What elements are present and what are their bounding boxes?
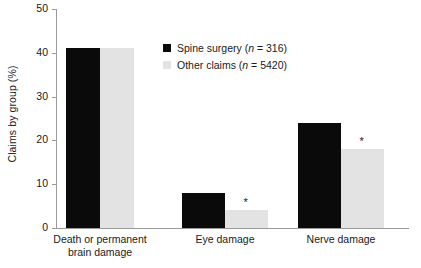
y-axis-tick-mark [52,228,56,229]
y-axis-tick: 30 [0,97,56,98]
x-axis-category-label-line: Nerve damage [266,233,416,246]
y-axis-tick-label: 30 [36,90,48,102]
x-axis-category-label-line: brain damage [25,246,175,259]
x-axis-category-label: Nerve damage [266,233,416,246]
y-axis-title: Claims by group (%) [0,0,22,228]
bar[interactable] [225,210,268,228]
y-axis-tick-label: 0 [42,221,48,233]
bar[interactable] [298,123,341,228]
y-axis-title-text: Claims by group (%) [5,65,17,162]
legend-swatch-icon-other-claims [163,61,171,69]
bar[interactable] [341,149,384,228]
significance-marker: * [360,136,364,147]
y-axis-tick-label: 20 [36,133,48,145]
bar-chart-figure: Claims by group (%) 01020304050 Death or… [0,0,421,268]
chart-legend: Spine surgery (n = 316) Other claims (n … [163,40,287,74]
y-axis-tick: 20 [0,140,56,141]
y-axis-tick-label: 50 [36,2,48,14]
y-axis-tick: 10 [0,184,56,185]
y-axis-tick: 50 [0,9,56,10]
bar[interactable] [66,48,100,228]
y-axis-tick-label: 40 [36,46,48,58]
bar[interactable] [182,193,225,228]
bar[interactable] [100,48,134,228]
y-axis-tick: 0 [0,228,56,229]
legend-item-other-claims[interactable]: Other claims (n = 5420) [163,57,287,72]
legend-label-spine-surgery: Spine surgery (n = 316) [177,42,287,54]
legend-swatch-icon-spine-surgery [163,44,171,52]
y-axis-tick-label: 10 [36,177,48,189]
x-axis-line [56,228,409,229]
legend-item-spine-surgery[interactable]: Spine surgery (n = 316) [163,40,287,55]
x-axis-labels: Death or permanentbrain damageEye damage… [56,233,409,268]
y-axis-tick: 40 [0,53,56,54]
significance-marker: * [244,197,248,208]
legend-label-other-claims: Other claims (n = 5420) [177,59,287,71]
